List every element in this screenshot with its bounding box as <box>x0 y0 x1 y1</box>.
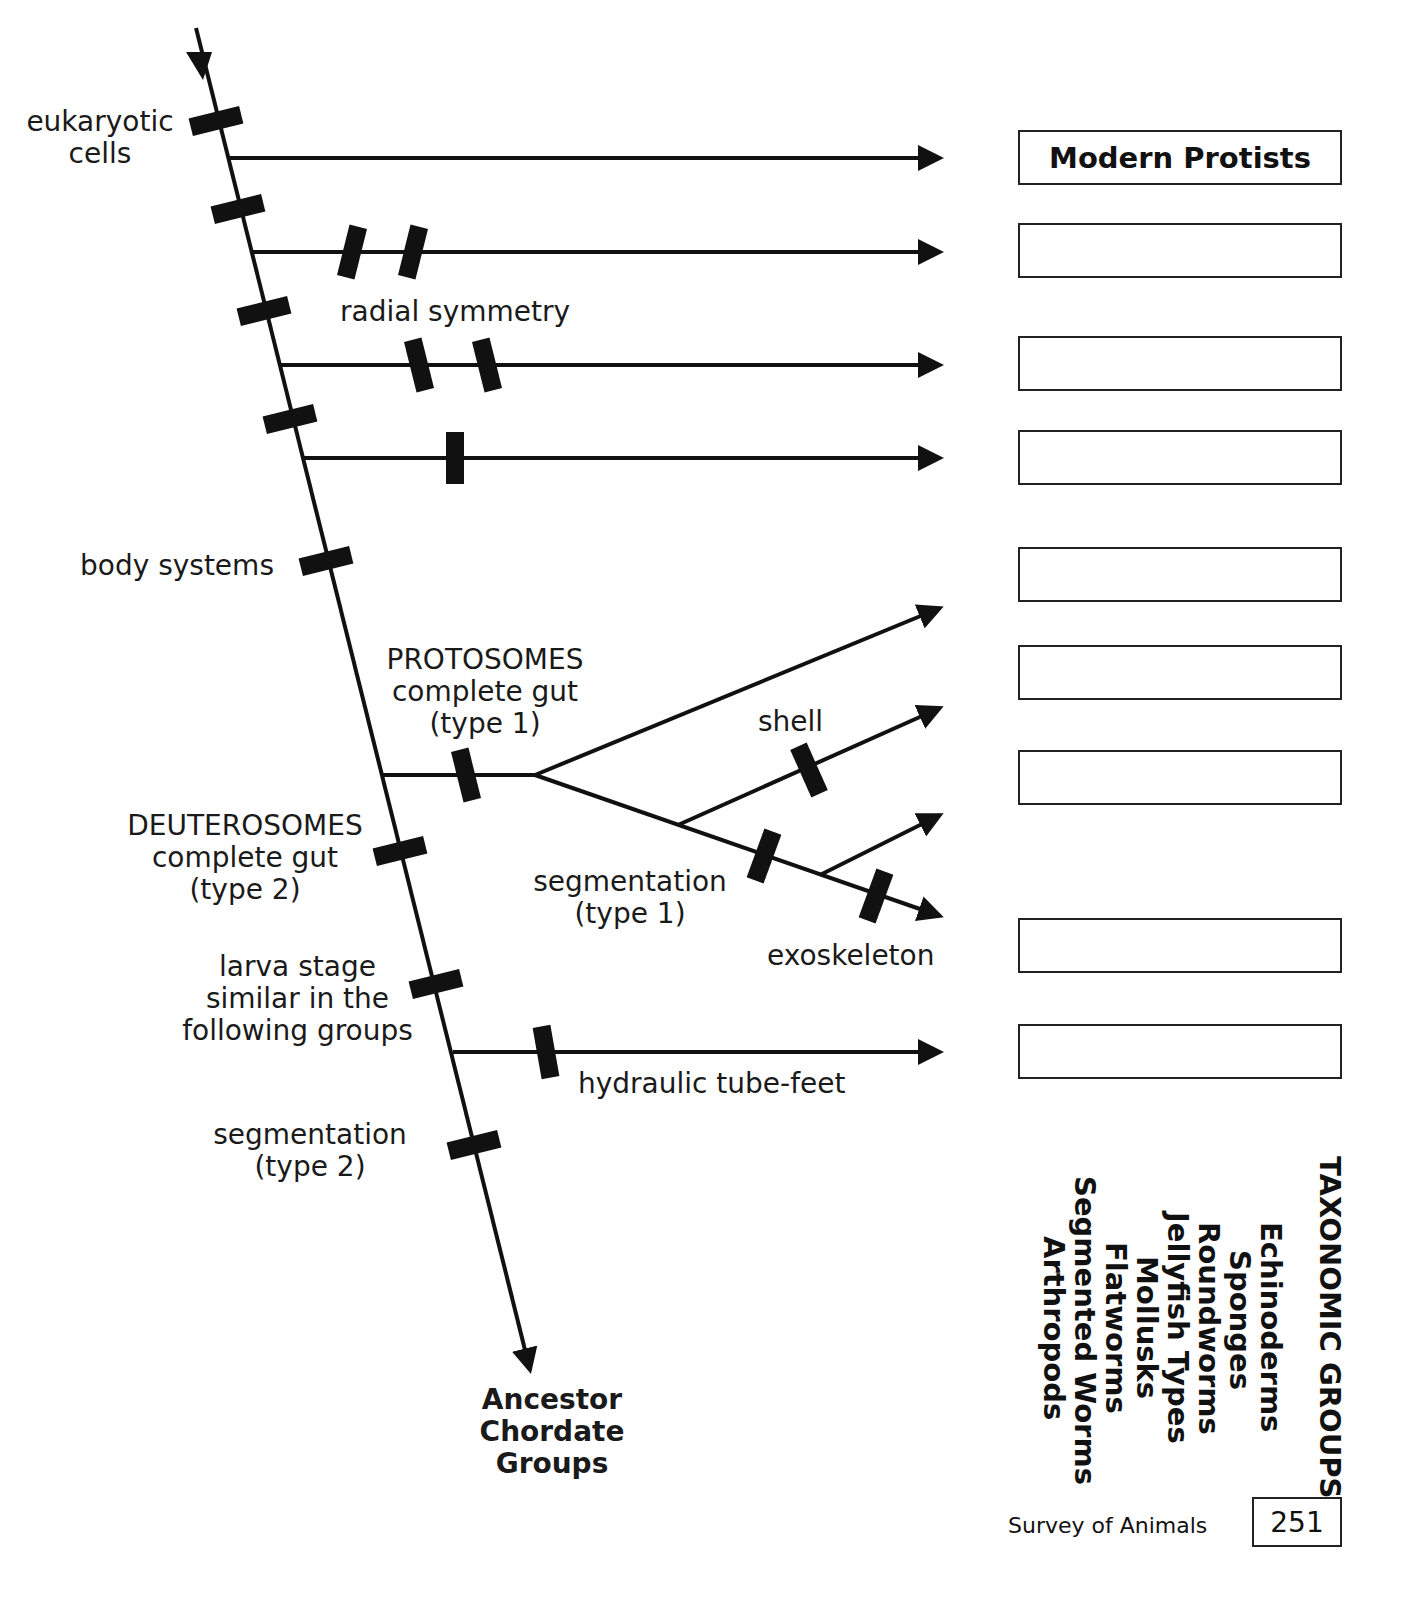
taxonomic-group-item: Roundworms <box>1193 1222 1224 1435</box>
answer-box-5[interactable] <box>1018 547 1342 602</box>
book-title: Survey of Animals <box>1008 1513 1207 1538</box>
label-segmentation-type2: segmentation (type 2) <box>200 1119 420 1183</box>
label-shell: shell <box>758 706 823 738</box>
label-body-systems: body systems <box>80 550 274 582</box>
taxonomic-group-item: Sponges <box>1224 1250 1255 1390</box>
answer-box-2[interactable] <box>1018 223 1342 278</box>
answer-box-7[interactable] <box>1018 750 1342 805</box>
label-segmentation-type1: segmentation (type 1) <box>520 866 740 930</box>
taxonomic-group-item: Flatworms <box>1100 1242 1131 1414</box>
page-number: 251 <box>1252 1497 1342 1547</box>
answer-box-4[interactable] <box>1018 430 1342 485</box>
taxonomic-group-item: Arthropods <box>1038 1236 1069 1420</box>
answer-box-6[interactable] <box>1018 645 1342 700</box>
label-exoskeleton: exoskeleton <box>767 940 934 972</box>
label-eukaryotic-cells: eukaryotic cells <box>20 106 180 170</box>
answer-box-1[interactable]: Modern Protists <box>1018 130 1342 185</box>
taxonomic-group-item: Jellyfish Types <box>1162 1212 1193 1444</box>
taxonomic-group-item: Segmented Worms <box>1069 1176 1100 1485</box>
answer-box-9[interactable] <box>1018 1024 1342 1079</box>
label-deuterosomes: DEUTEROSOMES complete gut (type 2) <box>120 810 370 906</box>
taxonomic-group-item: Mollusks <box>1131 1256 1162 1399</box>
label-protosomes: PROTOSOMES complete gut (type 1) <box>370 644 600 740</box>
label-larva-stage: larva stage similar in the following gro… <box>170 951 425 1047</box>
label-ancestor-chordate-groups: Ancestor Chordate Groups <box>460 1384 644 1480</box>
answer-box-3[interactable] <box>1018 336 1342 391</box>
label-radial-symmetry: radial symmetry <box>340 296 570 328</box>
taxonomic-groups-title: TAXONOMIC GROUPS <box>1314 1156 1345 1498</box>
label-hydraulic-tube-feet: hydraulic tube-feet <box>578 1068 845 1100</box>
taxonomic-group-item: Echinoderms <box>1255 1222 1286 1432</box>
answer-box-8[interactable] <box>1018 918 1342 973</box>
